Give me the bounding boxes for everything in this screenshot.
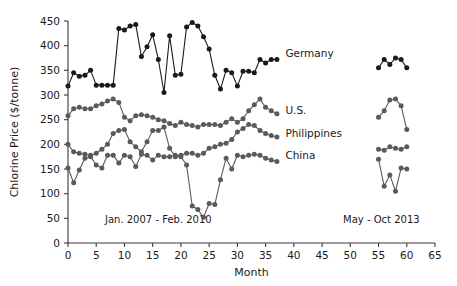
data-point-philippines	[122, 127, 127, 132]
data-point-china	[218, 177, 223, 182]
data-point-philippines	[156, 128, 161, 133]
y-axis-title: Chlorine Price ($/tonne)	[8, 67, 21, 198]
data-point-us	[82, 106, 87, 111]
data-point-china	[376, 157, 381, 162]
data-point-philippines	[207, 146, 212, 151]
data-point-us	[161, 118, 166, 123]
data-point-china	[88, 154, 93, 159]
data-point-philippines	[128, 139, 133, 144]
data-point-us	[404, 127, 409, 132]
data-point-china	[66, 166, 71, 171]
data-point-us	[224, 120, 229, 125]
data-point-us	[145, 113, 150, 118]
x-tick-label: 35	[259, 249, 272, 261]
data-point-germany	[393, 56, 398, 61]
y-tick-label: 0	[53, 237, 60, 249]
data-point-china	[229, 167, 234, 172]
data-point-us	[156, 117, 161, 122]
data-point-china	[82, 156, 87, 161]
data-point-china	[150, 158, 155, 163]
data-point-china	[99, 166, 104, 171]
series-label-us: U.S.	[285, 104, 306, 116]
data-point-philippines	[404, 144, 409, 149]
data-point-china	[241, 154, 246, 159]
data-point-us	[218, 123, 223, 128]
series-label-germany: Germany	[285, 47, 333, 59]
data-point-germany	[195, 23, 200, 28]
x-tick-label: 0	[65, 249, 72, 261]
data-point-china	[145, 153, 150, 158]
data-point-us	[235, 120, 240, 125]
data-point-philippines	[399, 147, 404, 152]
data-point-china	[195, 207, 200, 212]
data-point-philippines	[195, 153, 200, 158]
data-point-china	[263, 156, 268, 161]
data-point-germany	[173, 73, 178, 78]
data-point-germany	[218, 87, 223, 92]
data-point-philippines	[393, 146, 398, 151]
data-point-philippines	[201, 151, 206, 156]
data-point-germany	[235, 84, 240, 89]
data-point-philippines	[246, 122, 251, 127]
data-point-germany	[122, 27, 127, 32]
data-point-philippines	[263, 131, 268, 136]
data-point-germany	[145, 44, 150, 49]
data-point-germany	[382, 57, 387, 62]
data-point-germany	[387, 62, 392, 67]
data-point-philippines	[382, 148, 387, 153]
chart-canvas: 0510152025303540455055606505010015020025…	[0, 0, 457, 286]
data-point-philippines	[116, 128, 121, 133]
data-point-us	[128, 118, 133, 123]
data-point-china	[184, 163, 189, 168]
data-point-germany	[257, 57, 262, 62]
data-point-us	[105, 98, 110, 103]
data-point-us	[387, 97, 392, 102]
data-point-china	[178, 154, 183, 159]
data-point-philippines	[269, 133, 274, 138]
data-point-philippines	[241, 126, 246, 131]
data-point-us	[393, 96, 398, 101]
data-point-germany	[252, 70, 257, 75]
data-point-germany	[246, 69, 251, 74]
data-point-china	[252, 152, 257, 157]
data-point-us	[77, 105, 82, 110]
data-point-philippines	[111, 131, 116, 136]
data-point-philippines	[184, 151, 189, 156]
data-point-germany	[82, 73, 87, 78]
data-point-us	[167, 121, 172, 126]
data-point-philippines	[218, 142, 223, 147]
data-point-germany	[71, 70, 76, 75]
data-point-china	[111, 153, 116, 158]
data-point-germany	[212, 73, 217, 78]
data-point-philippines	[105, 142, 110, 147]
data-point-germany	[229, 70, 234, 75]
data-point-china	[77, 167, 82, 172]
data-point-us	[195, 125, 200, 130]
data-point-us	[257, 96, 262, 101]
data-point-germany	[133, 22, 138, 27]
data-point-philippines	[99, 147, 104, 152]
data-point-china	[116, 161, 121, 166]
data-point-china	[393, 189, 398, 194]
y-tick-label: 300	[40, 89, 60, 101]
x-tick-label: 60	[400, 249, 413, 261]
data-point-china	[105, 153, 110, 158]
y-tick-label: 250	[40, 113, 60, 125]
y-tick-label: 50	[47, 212, 60, 224]
data-point-us	[252, 102, 257, 107]
data-point-us	[88, 106, 93, 111]
data-point-germany	[399, 57, 404, 62]
data-point-germany	[66, 84, 71, 89]
series-line-germany	[68, 22, 277, 92]
data-point-china	[212, 202, 217, 207]
data-point-china	[167, 154, 172, 159]
data-point-china	[224, 156, 229, 161]
data-point-germany	[167, 33, 172, 38]
x-tick-label: 10	[118, 249, 131, 261]
data-point-us	[263, 105, 268, 110]
data-point-philippines	[94, 151, 99, 156]
data-point-us	[173, 123, 178, 128]
data-point-us	[184, 122, 189, 127]
data-point-germany	[207, 47, 212, 52]
data-point-philippines	[145, 139, 150, 144]
